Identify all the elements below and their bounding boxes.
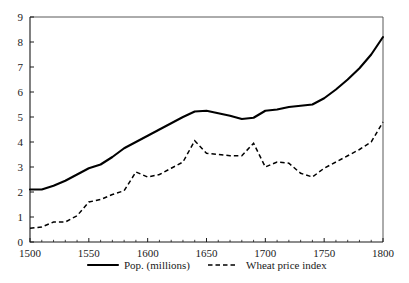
- x-tick-label: 1500: [19, 247, 42, 259]
- line-chart: 1500155016001650170017501800 0123456789 …: [0, 0, 409, 283]
- y-tick-label: 4: [18, 136, 24, 148]
- y-tick-label: 6: [18, 86, 24, 98]
- y-tick-label: 9: [18, 11, 24, 23]
- x-tick-label: 1550: [78, 247, 101, 259]
- series-line-population: [30, 37, 383, 190]
- axis-ticks: [30, 17, 383, 242]
- y-tick-label: 0: [18, 236, 24, 248]
- x-tick-label: 1650: [196, 247, 219, 259]
- y-tick-label: 1: [18, 211, 24, 223]
- chart-legend: Pop. (millions)Wheat price index: [88, 259, 327, 272]
- y-tick-label: 7: [18, 61, 24, 73]
- x-tick-label: 1600: [137, 247, 160, 259]
- plot-frame: [30, 17, 383, 242]
- data-series: [30, 37, 383, 228]
- plot-border-top-right: [30, 17, 383, 242]
- plot-axis-left-bottom: [30, 17, 383, 242]
- legend-label-wheat-price-index: Wheat price index: [246, 259, 327, 271]
- y-tick-label: 3: [18, 161, 24, 173]
- y-axis-tick-labels: 0123456789: [18, 11, 24, 248]
- y-tick-label: 8: [18, 36, 24, 48]
- x-axis-tick-labels: 1500155016001650170017501800: [19, 247, 395, 259]
- legend-label-population: Pop. (millions): [124, 259, 190, 272]
- x-tick-label: 1800: [372, 247, 395, 259]
- x-tick-label: 1700: [254, 247, 277, 259]
- y-tick-label: 5: [18, 111, 24, 123]
- x-tick-label: 1750: [313, 247, 336, 259]
- chart-figure: 1500155016001650170017501800 0123456789 …: [0, 0, 409, 283]
- y-tick-label: 2: [18, 186, 24, 198]
- series-line-wheat-price: [30, 122, 383, 228]
